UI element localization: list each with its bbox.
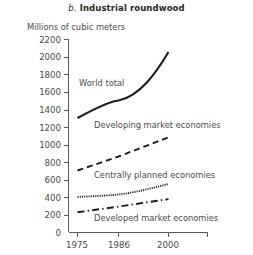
y-tick-label: 1600: [39, 87, 61, 97]
y-tick-label: 1000: [39, 140, 61, 150]
series-label-developing-market-economies: Developing market economies: [94, 120, 221, 130]
x-tick-label: 1986: [108, 240, 130, 250]
y-tick-labels: 2200 2000 1800 1600 1400 1200 1000 800 6…: [39, 35, 61, 238]
series-label-developed-market-economies: Developed market economies: [94, 213, 218, 223]
y-tick-label: 0: [56, 228, 61, 238]
y-tick-label: 600: [45, 175, 61, 185]
series-line-centrally-planned-economies: [78, 184, 169, 197]
y-tick-label: 1200: [39, 123, 61, 133]
y-tick-label: 400: [45, 193, 61, 203]
series-label-centrally-planned-economies: Centrally planned economies: [94, 170, 215, 180]
y-tick-label: 1400: [39, 105, 61, 115]
y-tick-marks: [64, 40, 69, 216]
x-tick-labels: 1975 1986 2000: [66, 240, 179, 250]
series-label-world-total: World total: [79, 78, 124, 88]
x-tick-label: 1975: [66, 240, 88, 250]
y-tick-label: 800: [45, 158, 61, 168]
y-tick-label: 1800: [39, 70, 61, 80]
x-tick-label: 2000: [157, 240, 179, 250]
y-tick-label: 200: [45, 210, 61, 220]
y-tick-label: 2200: [39, 35, 61, 45]
series-line-developed-market-economies: [78, 199, 169, 212]
figure-industrial-roundwood: b. Industrial roundwood Millions of cubi…: [0, 0, 253, 255]
line-chart-plot: 2200 2000 1800 1600 1400 1200 1000 800 6…: [0, 0, 253, 255]
y-tick-label: 2000: [39, 52, 61, 62]
series-line-developing-market-economies: [78, 137, 169, 170]
x-tick-marks: [78, 233, 208, 238]
